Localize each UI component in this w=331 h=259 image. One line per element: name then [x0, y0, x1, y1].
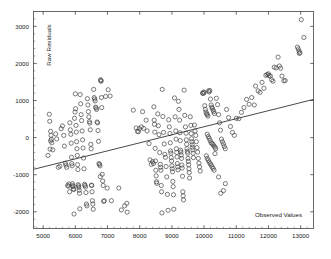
y-tick-label: 3000	[15, 23, 29, 30]
data-point	[86, 103, 90, 107]
data-point	[46, 153, 50, 157]
data-point	[165, 192, 169, 196]
data-point	[172, 96, 176, 100]
x-tick-label: 10000	[195, 232, 213, 239]
data-point	[196, 150, 200, 154]
data-point	[223, 182, 227, 186]
data-point	[247, 102, 251, 106]
data-point	[219, 137, 223, 141]
data-point	[105, 186, 109, 190]
data-point	[147, 141, 151, 145]
data-point	[166, 208, 170, 212]
data-point	[89, 142, 93, 146]
data-point	[88, 128, 92, 132]
data-point	[96, 128, 100, 132]
data-point	[156, 112, 160, 116]
data-point	[48, 129, 52, 133]
data-point	[90, 190, 94, 194]
data-point	[180, 166, 184, 170]
data-point	[239, 110, 243, 114]
data-point	[181, 198, 185, 202]
data-point	[154, 174, 158, 178]
data-point	[176, 99, 180, 103]
data-point	[76, 167, 80, 171]
data-point	[196, 156, 200, 160]
data-point	[159, 183, 163, 187]
data-point	[99, 95, 103, 99]
data-point	[67, 190, 71, 194]
data-point	[80, 138, 84, 142]
data-point	[171, 184, 175, 188]
data-point	[68, 121, 72, 125]
data-point	[174, 129, 178, 133]
data-point	[69, 132, 73, 136]
data-point	[51, 148, 55, 152]
data-point	[215, 103, 219, 107]
data-point	[165, 175, 169, 179]
data-point	[185, 142, 189, 146]
data-point	[194, 140, 198, 144]
y-tick-label: -2000	[13, 208, 29, 215]
data-point	[175, 155, 179, 159]
data-point	[178, 138, 182, 142]
data-point	[276, 55, 280, 59]
data-point	[171, 193, 175, 197]
figure-container: 5000600070008000900010000110001200013000…	[0, 0, 331, 259]
x-tick-label: 8000	[133, 232, 147, 239]
data-point	[280, 74, 284, 78]
data-point	[244, 97, 248, 101]
data-point	[158, 150, 162, 154]
y-axis-tick-labels: 3000200010000-1000-2000	[13, 23, 29, 215]
data-point	[159, 190, 163, 194]
y-tick-label: 1000	[15, 97, 29, 104]
data-point	[49, 133, 53, 137]
data-point	[176, 168, 180, 172]
data-point	[69, 141, 73, 145]
data-point	[87, 115, 91, 119]
data-point	[159, 168, 163, 172]
data-point	[72, 212, 76, 216]
data-point	[302, 35, 306, 39]
data-point	[181, 194, 185, 198]
data-point	[167, 125, 171, 129]
data-point	[183, 113, 187, 117]
data-point	[62, 144, 66, 148]
data-point	[163, 155, 167, 159]
x-tick-label: 12000	[260, 232, 278, 239]
data-point	[262, 86, 266, 90]
data-point	[79, 113, 83, 117]
data-point	[62, 133, 66, 137]
data-point	[221, 189, 225, 193]
data-point	[173, 115, 177, 119]
x-tick-label: 7000	[101, 232, 115, 239]
data-point	[219, 191, 223, 195]
data-point	[187, 176, 191, 180]
data-point	[108, 94, 112, 98]
data-point	[153, 130, 157, 134]
data-point	[253, 84, 257, 88]
data-point	[178, 118, 182, 122]
data-point	[125, 201, 129, 205]
data-point	[75, 153, 79, 157]
data-point	[131, 108, 135, 112]
data-point	[162, 142, 166, 146]
data-point	[80, 118, 84, 122]
data-point	[92, 87, 96, 91]
data-point	[75, 147, 79, 151]
data-point	[250, 95, 254, 99]
data-point	[101, 183, 105, 187]
data-point	[164, 164, 168, 168]
data-point	[170, 170, 174, 174]
data-point	[96, 139, 100, 143]
data-point	[194, 133, 198, 137]
data-point	[125, 210, 129, 214]
data-point	[225, 107, 229, 111]
data-point	[198, 169, 202, 173]
y-tick-label: -1000	[13, 171, 29, 178]
data-point	[189, 131, 193, 135]
data-point	[160, 87, 164, 91]
data-point	[103, 94, 107, 98]
data-point	[156, 124, 160, 128]
data-point	[168, 141, 172, 145]
data-point	[299, 18, 303, 22]
